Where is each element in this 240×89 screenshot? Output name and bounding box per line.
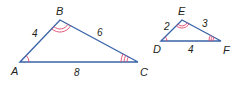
vertex-label-e: E <box>178 5 186 17</box>
side-label-ef: 3 <box>202 18 208 29</box>
side-label-bc: 6 <box>97 27 103 38</box>
angle-mark-f-2 <box>211 36 212 41</box>
angle-mark-c-2 <box>124 55 126 62</box>
angle-mark-a <box>26 56 29 63</box>
side-label-ab: 4 <box>32 28 38 39</box>
triangle-abc: A B C 4 6 8 <box>10 5 148 78</box>
vertex-label-a: A <box>10 65 18 77</box>
vertex-label-d: D <box>153 43 161 55</box>
angle-mark-f-1 <box>209 35 210 41</box>
triangle-abc-edges <box>20 20 138 62</box>
side-label-df: 4 <box>188 44 194 55</box>
triangle-def: D E F 2 3 4 <box>153 5 231 56</box>
similar-triangles-diagram: A B C 4 6 8 D E F 2 3 4 <box>0 0 240 89</box>
triangle-def-edges <box>161 20 221 41</box>
side-label-ac: 8 <box>74 67 80 78</box>
vertex-label-b: B <box>56 5 63 17</box>
vertex-label-f: F <box>223 44 231 56</box>
angle-mark-c-3 <box>127 57 128 62</box>
angle-mark-c-1 <box>121 54 123 62</box>
side-label-de: 2 <box>163 21 170 32</box>
vertex-label-c: C <box>140 66 148 78</box>
